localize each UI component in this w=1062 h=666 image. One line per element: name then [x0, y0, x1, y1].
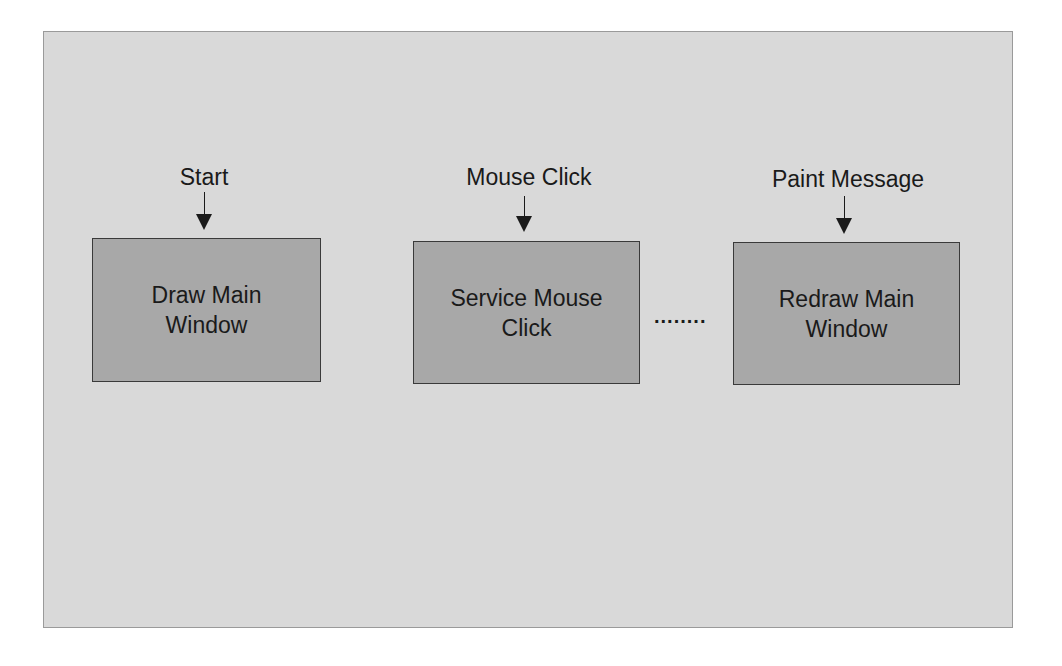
event-label-start: Start	[180, 164, 229, 191]
node-label: Draw Main Window	[152, 280, 262, 340]
event-label-mouse-click: Mouse Click	[466, 164, 591, 191]
ellipsis-connector: ........	[654, 305, 706, 328]
node-label: Service Mouse Click	[450, 283, 602, 343]
node-label: Redraw Main Window	[779, 284, 915, 344]
event-label-paint-message: Paint Message	[772, 166, 924, 193]
node-service-mouse-click: Service Mouse Click	[413, 241, 640, 384]
node-draw-main-window: Draw Main Window	[92, 238, 321, 382]
node-redraw-main-window: Redraw Main Window	[733, 242, 960, 385]
